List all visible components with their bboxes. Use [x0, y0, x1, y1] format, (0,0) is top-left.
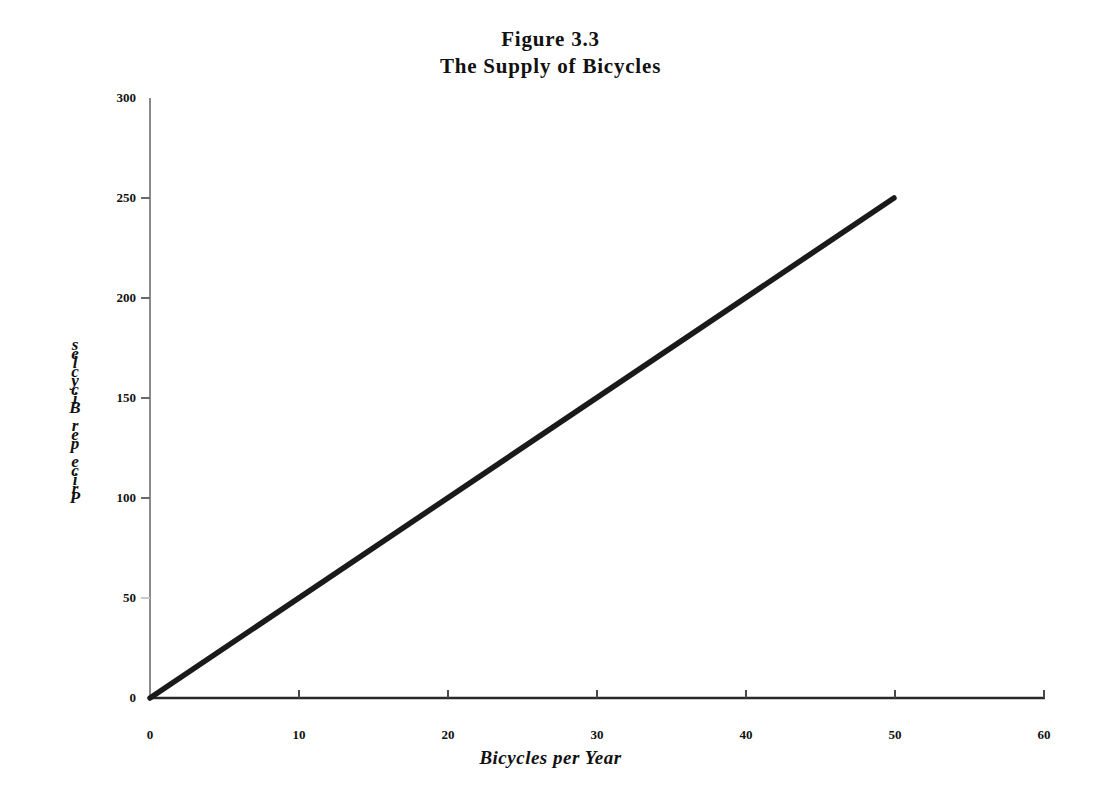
y-tick-label-50: 50 [92, 590, 136, 606]
x-tick-label-50: 50 [889, 727, 902, 743]
plot-area: 300 250 200 150 100 50 0 0 10 20 30 40 5… [0, 0, 1101, 798]
x-tick-label-0: 0 [147, 727, 154, 743]
y-tick-label-250: 250 [92, 190, 136, 206]
supply-chart-svg [0, 0, 1101, 798]
x-tick-label-60: 60 [1038, 727, 1051, 743]
y-axis-title: selcyciB rep ecirP [58, 340, 92, 502]
supply-curve [150, 198, 894, 698]
y-tick-label-100: 100 [92, 490, 136, 506]
y-axis-title-char: P [58, 493, 92, 502]
x-axis-title: Bicycles per Year [0, 747, 1101, 769]
y-axis-ticks [141, 198, 150, 598]
x-tick-label-40: 40 [740, 727, 753, 743]
y-tick-label-200: 200 [92, 290, 136, 306]
y-tick-label-300: 300 [92, 90, 136, 106]
x-tick-label-10: 10 [293, 727, 306, 743]
y-tick-label-0: 0 [92, 690, 136, 706]
x-tick-label-30: 30 [591, 727, 604, 743]
y-tick-label-150: 150 [92, 390, 136, 406]
x-tick-label-20: 20 [442, 727, 455, 743]
